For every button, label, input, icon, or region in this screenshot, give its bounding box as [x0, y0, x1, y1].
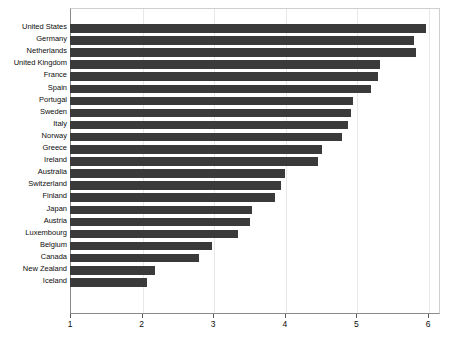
bar — [70, 109, 351, 118]
category-label: Italy — [53, 120, 67, 128]
category-label: Greece — [42, 144, 67, 152]
bar — [70, 278, 147, 287]
category-axis-labels: United StatesGermanyNetherlandsUnited Ki… — [0, 8, 67, 314]
x-tick-label: 1 — [68, 319, 73, 329]
category-label: Austria — [44, 217, 67, 225]
bar — [70, 60, 380, 69]
category-label: Japan — [47, 205, 67, 213]
x-tick-label: 4 — [282, 319, 287, 329]
x-tick-mark — [142, 314, 143, 318]
bar — [70, 266, 155, 275]
bar — [70, 254, 199, 263]
category-label: Norway — [42, 132, 67, 140]
bar — [70, 48, 416, 57]
bar — [70, 242, 212, 251]
category-label: Canada — [41, 253, 67, 261]
bar — [70, 157, 318, 166]
x-tick-mark — [70, 314, 71, 318]
bar — [70, 72, 378, 81]
category-label: New Zealand — [23, 265, 67, 273]
category-label: Netherlands — [27, 47, 67, 55]
bars-layer — [70, 8, 440, 314]
category-label: Belgium — [40, 241, 67, 249]
category-label: Iceland — [43, 277, 67, 285]
category-label: Ireland — [44, 156, 67, 164]
category-label: Germany — [36, 35, 67, 43]
x-tick-mark — [285, 314, 286, 318]
x-tick-label: 5 — [354, 319, 359, 329]
category-label: Sweden — [40, 108, 67, 116]
bar — [70, 230, 238, 239]
x-tick-mark — [356, 314, 357, 318]
bar — [70, 181, 281, 190]
bar-chart: United StatesGermanyNetherlandsUnited Ki… — [0, 0, 456, 343]
bar — [70, 145, 322, 154]
category-label: Switzerland — [28, 180, 67, 188]
value-axis: 123456 — [70, 314, 441, 336]
bar — [70, 218, 250, 227]
category-label: United States — [22, 23, 67, 31]
bar — [70, 193, 275, 202]
x-tick-mark — [213, 314, 214, 318]
bar — [70, 206, 252, 215]
x-tick-label: 3 — [211, 319, 216, 329]
category-label: Spain — [48, 84, 67, 92]
category-label: United Kingdom — [14, 59, 67, 67]
bar — [70, 121, 348, 130]
bar — [70, 36, 414, 45]
bar — [70, 97, 353, 106]
bar — [70, 133, 342, 142]
bar — [70, 24, 426, 33]
x-tick-label: 6 — [426, 319, 431, 329]
x-tick-label: 2 — [139, 319, 144, 329]
bar — [70, 169, 285, 178]
bar — [70, 85, 371, 94]
category-label: Portugal — [39, 96, 67, 104]
x-tick-mark — [428, 314, 429, 318]
category-label: Luxembourg — [25, 229, 67, 237]
category-label: France — [44, 71, 67, 79]
category-label: Australia — [38, 168, 67, 176]
category-label: Finland — [42, 192, 67, 200]
